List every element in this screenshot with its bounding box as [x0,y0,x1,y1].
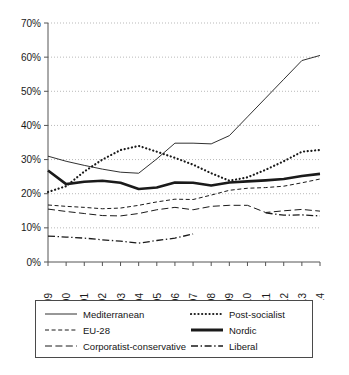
y-axis-tick-label: 0% [27,257,42,268]
legend-item-corporatist-conservative[interactable]: Corporatist-conservative [36,338,186,354]
legend-item-label: Nordic [229,325,256,336]
y-axis-tick-label: 30% [21,154,41,165]
legend-item-label: EU-28 [83,325,110,336]
x-axis-tick-label: 2005 [152,293,163,300]
x-axis-tick-label: 2014 [315,293,326,300]
x-axis-tick-label: 2006 [170,293,181,300]
x-axis-tick-label: 2009 [224,293,235,300]
dotted-line-swatch [190,309,224,319]
legend-item-label: Liberal [229,341,258,352]
series-line [48,234,193,243]
x-axis-tick-label: 2013 [297,293,308,300]
x-axis-tick-label: 2008 [206,293,217,300]
legend: MediterraneanPost-socialistEU-28NordicCo… [35,300,313,358]
line-chart: 0%10%20%30%40%50%60%70% 1999200020012002… [0,0,349,375]
legend-item-label: Corporatist-conservative [83,341,186,352]
plot-area: 0%10%20%30%40%50%60%70% 1999200020012002… [0,0,349,300]
y-axis-tick-label: 70% [21,18,41,29]
solid-thick-line-swatch [190,325,224,335]
legend-item-eu-28[interactable]: EU-28 [36,322,186,338]
series-line [48,146,320,192]
x-axis-tick-label: 2010 [242,293,253,300]
dashed-long-line-swatch [44,341,78,351]
y-axis-tick-label: 40% [21,120,41,131]
legend-item-label: Mediterranean [83,309,144,320]
x-axis-ticks [48,262,320,266]
x-axis-tick-label: 2000 [61,293,72,300]
x-axis-tick-label: 2001 [79,293,90,300]
axis-lines [48,23,320,262]
x-axis-tick-label: 2011 [261,293,272,300]
legend-item-mediterranean[interactable]: Mediterranean [36,306,186,322]
series-line [266,213,320,216]
x-axis-tick-label: 2003 [116,293,127,300]
legend-item-nordic[interactable]: Nordic [186,322,314,338]
y-axis-tick-label: 60% [21,52,41,63]
dash-dot-line-swatch [190,341,224,351]
y-axis-tick-label: 50% [21,86,41,97]
x-axis-tick-label: 1999 [43,293,54,300]
legend-item-liberal[interactable]: Liberal [186,338,314,354]
x-axis-tick-labels: 1999200020012002200320042005200620072008… [43,293,326,300]
x-axis-tick-label: 2004 [134,293,145,300]
x-axis-tick-label: 2002 [97,293,108,300]
y-axis-tick-label: 20% [21,188,41,199]
y-axis-tick-label: 10% [21,222,41,233]
x-axis-tick-label: 2007 [188,293,199,300]
series-line [48,55,320,173]
dashed-short-line-swatch [44,325,78,335]
x-axis-tick-label: 2012 [279,293,290,300]
gridlines [48,23,320,228]
y-axis-ticks [44,23,48,262]
y-axis-tick-labels: 0%10%20%30%40%50%60%70% [21,18,41,268]
legend-item-label: Post-socialist [229,309,285,320]
solid-thin-line-swatch [44,309,78,319]
legend-item-post-socialist[interactable]: Post-socialist [186,306,314,322]
data-series-layer [48,55,320,243]
